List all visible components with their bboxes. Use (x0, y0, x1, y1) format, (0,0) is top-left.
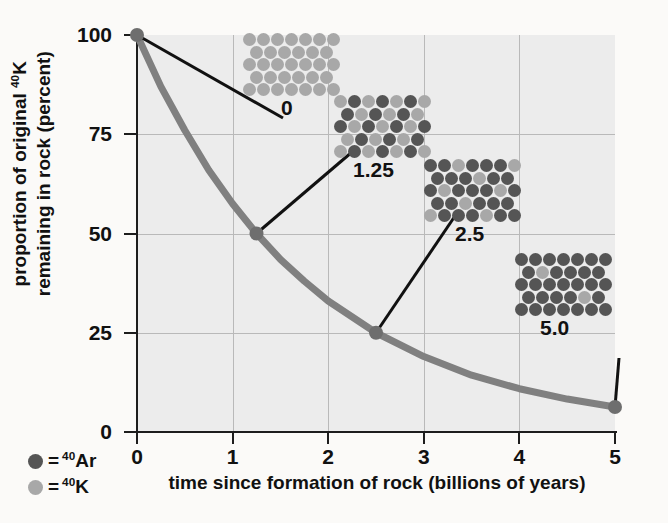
y-axis-title-text: proportion of original (9, 88, 30, 286)
dot-k40 (473, 172, 486, 185)
dot-ar40 (397, 108, 410, 121)
x-tick-1 (232, 432, 234, 444)
dot-k40 (278, 71, 291, 84)
dot-ar40 (334, 120, 347, 133)
dot-ar40 (508, 184, 521, 197)
y-axis-title-element: K (9, 61, 30, 75)
dot-ar40 (452, 184, 465, 197)
dot-k40 (285, 33, 298, 46)
dot-k40 (313, 33, 326, 46)
dot-ar40 (599, 303, 612, 316)
dot-k40 (418, 145, 431, 158)
legend-label-k: 40K (62, 476, 89, 498)
dot-k40 (320, 71, 333, 84)
dot-k40 (292, 71, 305, 84)
dot-k40 (390, 95, 403, 108)
legend-item-ar: = 40Ar (28, 448, 96, 474)
dot-ar40 (501, 197, 514, 210)
dot-k40 (578, 291, 591, 304)
dot-k40 (411, 108, 424, 121)
dot-k40 (404, 120, 417, 133)
dot-k40 (271, 83, 284, 96)
dot-ar40 (418, 120, 431, 133)
decay-curve-figure: 100 75 50 25 0 0 1 2 3 4 5 proportion of… (0, 0, 668, 523)
dot-grid-1 (334, 95, 432, 157)
dot-ar40 (543, 303, 556, 316)
dot-ar40 (431, 197, 444, 210)
dot-ar40 (376, 145, 389, 158)
dot-ar40 (599, 278, 612, 291)
dot-ar40 (369, 108, 382, 121)
dot-ar40 (585, 253, 598, 266)
y-ticklabel-0: 0 (56, 421, 112, 442)
dot-ar40 (543, 278, 556, 291)
legend: = 40Ar = 40K (28, 448, 96, 500)
dot-ar40 (376, 95, 389, 108)
dot-ar40 (571, 278, 584, 291)
dot-ar40 (550, 291, 563, 304)
y-tick-50 (124, 233, 137, 235)
dot-ar40 (466, 209, 479, 222)
x-ticklabel-3: 3 (404, 446, 444, 467)
dot-ar40 (494, 159, 507, 172)
dot-ar40 (404, 145, 417, 158)
dot-grid-3 (515, 253, 613, 315)
x-ticklabel-2: 2 (308, 446, 348, 467)
legend-dark-dot-icon (28, 454, 43, 469)
dot-k40 (271, 33, 284, 46)
y-tick-100 (124, 34, 137, 36)
dot-ar40 (529, 253, 542, 266)
dot-k40 (278, 46, 291, 59)
dot-ar40 (522, 266, 535, 279)
dot-ar40 (515, 278, 528, 291)
y-ticklabel-100: 100 (56, 24, 112, 45)
y-tick-75 (124, 133, 137, 135)
x-ticklabel-5: 5 (595, 446, 635, 467)
dot-ar40 (438, 159, 451, 172)
dot-k40 (264, 46, 277, 59)
dot-k40 (299, 83, 312, 96)
dot-k40 (418, 95, 431, 108)
dot-ar40 (383, 133, 396, 146)
dot-k40 (264, 71, 277, 84)
y-axis-title-line1: proportion of original 40K (9, 61, 30, 286)
x-ticklabel-4: 4 (499, 446, 539, 467)
dot-k40 (250, 71, 263, 84)
dot-ar40 (536, 291, 549, 304)
dot-k40 (383, 108, 396, 121)
legend-light-dot-icon (28, 480, 43, 495)
x-axis-title: time since formation of rock (billions o… (137, 472, 617, 494)
dot-ar40 (445, 172, 458, 185)
dot-k40 (250, 46, 263, 59)
inset-label-0: 0 (281, 97, 293, 118)
dot-ar40 (424, 159, 437, 172)
dot-ar40 (550, 266, 563, 279)
x-axis-line (136, 431, 617, 433)
legend-equals-ar: = (48, 450, 59, 472)
dot-ar40 (578, 266, 591, 279)
legend-superscript-k: 40 (62, 475, 75, 488)
dot-k40 (285, 83, 298, 96)
inset-diagram-3: 5.0 (515, 253, 613, 315)
dot-ar40 (480, 159, 493, 172)
dot-grid-2 (424, 159, 522, 221)
dot-ar40 (341, 108, 354, 121)
x-tick-5 (614, 432, 616, 444)
dot-grid-0 (243, 33, 341, 95)
legend-item-k: = 40K (28, 474, 96, 500)
y-ticklabel-75: 75 (56, 123, 112, 144)
legend-label-ar: 40Ar (62, 450, 96, 472)
dot-ar40 (466, 184, 479, 197)
legend-equals-k: = (48, 476, 59, 498)
dot-k40 (424, 209, 437, 222)
dot-ar40 (522, 291, 535, 304)
dot-k40 (243, 83, 256, 96)
dot-k40 (438, 184, 451, 197)
dot-ar40 (529, 278, 542, 291)
y-tick-25 (124, 332, 137, 334)
dot-k40 (508, 159, 521, 172)
dot-k40 (390, 145, 403, 158)
legend-element-ar: Ar (75, 450, 96, 471)
dot-ar40 (411, 133, 424, 146)
legend-element-k: K (75, 476, 89, 497)
